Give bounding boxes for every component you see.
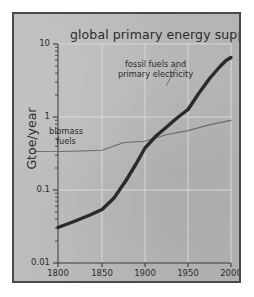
- y-tick-label-0-01: 0.01: [15, 258, 50, 267]
- chart-title: global primary energy supply: [70, 28, 241, 41]
- x-tick-label-2000: 2000: [215, 269, 241, 278]
- y-axis-label: Gtoe/year: [25, 99, 38, 179]
- annotation-fossil-fuels: fossil fuels and primary electricity: [118, 59, 193, 80]
- x-tick-label-1850: 1850: [86, 269, 118, 278]
- x-tick-label-1900: 1900: [129, 269, 161, 278]
- y-tick-label-0-1: 0.1: [18, 185, 50, 194]
- x-tick-label-1800: 1800: [42, 269, 74, 278]
- figure-root: global primary energy supply Gtoe/year 1…: [0, 0, 254, 297]
- chart-canvas: [14, 14, 241, 283]
- annotation-biomass-fuels: biomass fuels: [49, 126, 83, 147]
- x-tick-label-1950: 1950: [172, 269, 204, 278]
- y-major-ticks: [53, 44, 58, 263]
- y-tick-label-1: 1: [18, 112, 50, 121]
- annotation-biomass-line2: fuels: [49, 136, 83, 146]
- annotation-fossil-line2: primary electricity: [118, 69, 193, 79]
- y-tick-label-10: 10: [18, 39, 50, 48]
- annotation-biomass-line1: biomass: [49, 126, 83, 136]
- annotation-fossil-line1: fossil fuels and: [118, 59, 193, 69]
- x-ticks: [58, 263, 231, 267]
- chart-plate: global primary energy supply Gtoe/year 1…: [12, 12, 241, 283]
